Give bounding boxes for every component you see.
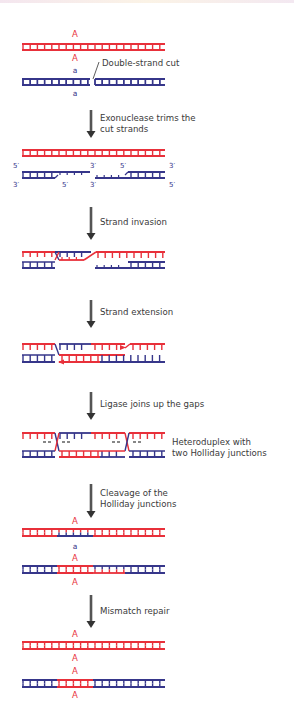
step-4-label-line1: Ligase joins up the gaps: [100, 399, 204, 410]
step-2-label-line1: Strand invasion: [100, 217, 167, 228]
process-arrow-6: [87, 595, 96, 628]
allele-label-converted-top: A: [72, 666, 78, 676]
arrow-head-icon: [87, 131, 96, 138]
allele-label-converted-bottom: A: [72, 690, 78, 700]
paternal-left-nick: [55, 175, 58, 178]
allele-label-heteroduplex: a: [73, 542, 78, 551]
allele-label-maternal-top: A: [72, 29, 78, 39]
process-arrow-1: [87, 110, 96, 138]
cut-pointer-line: [93, 62, 99, 79]
displaced-d-loop-join: [84, 252, 96, 260]
five-prime-label: 5′: [13, 162, 19, 170]
step-1-label-line2: cut strands: [100, 124, 196, 135]
step-5-label: Cleavage of the Holliday junctions: [100, 488, 176, 510]
arrow-head-icon: [87, 413, 96, 420]
process-arrow-5: [87, 484, 96, 518]
process-arrow-4: [87, 392, 96, 420]
process-arrow-2: [87, 207, 96, 240]
step-1-label-line1: Exonuclease trims the: [100, 113, 196, 124]
strand-cross: [55, 344, 59, 355]
arrow-shaft: [90, 300, 93, 322]
arrow-shaft: [90, 484, 93, 512]
step-3-label-line1: Strand extension: [100, 307, 173, 318]
step-5-label-line1: Cleavage of the: [100, 488, 176, 499]
arrow-shaft: [90, 595, 93, 622]
step-6-label: Mismatch repair: [100, 606, 169, 617]
five-prime-label: 5′: [120, 162, 126, 170]
arrow-shaft: [90, 110, 93, 132]
heteroduplex-label-line1: Heteroduplex with: [172, 437, 267, 448]
five-prime-label: 5′: [62, 181, 68, 189]
step-1-label: Exonuclease trims the cut strands: [100, 113, 196, 135]
arrow-shaft: [90, 392, 93, 414]
arrow-head-icon: [87, 511, 96, 518]
three-prime-label: 3′: [169, 162, 175, 170]
arrow-head-icon: [87, 621, 96, 628]
arrow-head-icon: [87, 233, 96, 240]
paternal-right-nick: [125, 172, 128, 175]
allele-label-repaired-bottom: A: [72, 653, 78, 663]
extension-arrowhead-icon: [58, 360, 64, 365]
allele-label-maternal-bottom: A: [72, 53, 78, 63]
three-prime-label: 3′: [13, 181, 19, 189]
three-prime-label: 3′: [90, 162, 96, 170]
step-3-label: Strand extension: [100, 307, 173, 318]
allele-label-recombinant-bottom: A: [72, 577, 78, 587]
step-6-label-line1: Mismatch repair: [100, 606, 169, 617]
step-2-label: Strand invasion: [100, 217, 167, 228]
allele-label-paternal-bottom: a: [73, 89, 78, 98]
three-prime-label: 3′: [90, 181, 96, 189]
arrow-shaft: [90, 207, 93, 234]
process-arrow-3: [87, 300, 96, 328]
allele-label-recombinant-top: A: [72, 553, 78, 563]
step-5-label-line2: Holliday junctions: [100, 499, 176, 510]
extension-arrowhead-icon: [120, 345, 126, 350]
allele-label-paternal-top: a: [73, 66, 78, 75]
five-prime-label: 5′: [169, 181, 175, 189]
step-4-label: Ligase joins up the gaps: [100, 399, 204, 410]
double-strand-cut-label: Double-strand cut: [102, 58, 179, 69]
allele-label-repaired-top: A: [72, 629, 78, 639]
heteroduplex-label-line2: two Holliday junctions: [172, 448, 267, 459]
arrow-head-icon: [87, 321, 96, 328]
heteroduplex-label: Heteroduplex with two Holliday junctions: [172, 437, 267, 459]
allele-label-maternal-top: A: [72, 516, 78, 526]
